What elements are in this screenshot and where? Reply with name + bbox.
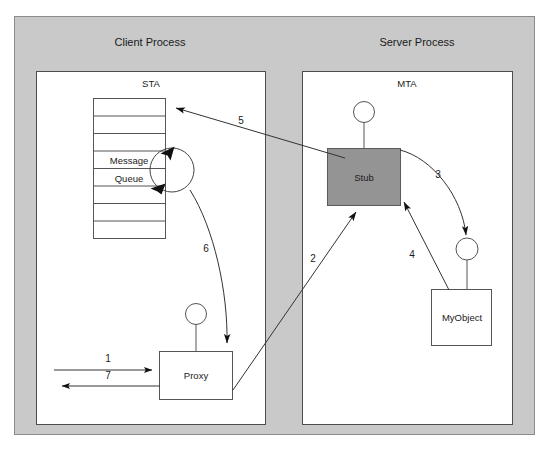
stub-interface-lollipop-icon — [354, 102, 375, 123]
step-7-label: 7 — [105, 370, 111, 381]
message-queue-label-line2: Queue — [115, 173, 144, 184]
message-queue: Message Queue — [94, 99, 166, 239]
com-marshalling-diagram: Client Process Server Process STA MTA Me… — [0, 0, 550, 455]
client-process-label: Client Process — [115, 36, 186, 48]
diagram-canvas: Client Process Server Process STA MTA Me… — [0, 0, 550, 455]
message-queue-label-line1: Message — [110, 155, 149, 166]
proxy-label: Proxy — [184, 370, 209, 381]
mta-label: MTA — [397, 78, 417, 89]
myobject-label: MyObject — [442, 312, 482, 323]
sta-label: STA — [142, 78, 160, 89]
step-3-label: 3 — [435, 169, 441, 180]
stub-label: Stub — [354, 172, 374, 183]
step-1-label: 1 — [105, 353, 111, 364]
proxy-interface-lollipop-icon — [186, 304, 207, 325]
step-5-label: 5 — [238, 115, 244, 126]
step-2-label: 2 — [310, 253, 316, 264]
step-4-label: 4 — [409, 249, 415, 260]
mta-apartment-box — [303, 72, 513, 425]
myobject-interface-lollipop-icon — [456, 238, 478, 260]
server-process-label: Server Process — [379, 36, 455, 48]
step-6-label: 6 — [203, 243, 209, 254]
